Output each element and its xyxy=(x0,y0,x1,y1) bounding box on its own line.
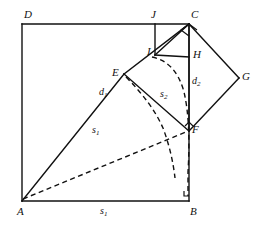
diagram-canvas xyxy=(0,0,262,229)
measure-label-d1: d1 xyxy=(99,87,108,97)
measure-label-s1-diag: s1 xyxy=(92,125,99,135)
measure-subscript: 1 xyxy=(104,210,108,218)
vertex-label-g: G xyxy=(242,71,250,82)
vertex-label-c: C xyxy=(191,9,198,20)
geometry-figure: DJCIHGEFAB d1s1s2d2s1 xyxy=(0,0,262,229)
measure-label-d2: d2 xyxy=(192,76,201,86)
measure-subscript: 2 xyxy=(164,93,168,101)
dashed-construction-group xyxy=(23,57,189,199)
edge-E-F xyxy=(124,74,189,131)
vertex-label-e: E xyxy=(112,67,119,78)
measure-label-s2: s2 xyxy=(160,89,167,99)
measure-label-s1-bottom: s1 xyxy=(100,206,107,216)
edge-I-H xyxy=(155,55,189,57)
solid-edges-group xyxy=(22,24,239,201)
vertex-label-b: B xyxy=(190,206,197,217)
edge-E-C xyxy=(124,24,189,74)
edge-I-C xyxy=(155,24,189,55)
vertex-label-d: D xyxy=(24,9,32,20)
vertex-label-h: H xyxy=(193,49,201,60)
vertex-label-i: I xyxy=(147,46,151,57)
measure-subscript: 1 xyxy=(104,91,108,99)
chord-A-to-F xyxy=(23,132,186,199)
measure-subscript: 2 xyxy=(197,80,201,88)
arc-E-to-F xyxy=(126,77,175,178)
edge-A-E xyxy=(22,74,124,201)
vertex-label-j: J xyxy=(151,9,156,20)
vertex-label-a: A xyxy=(17,206,24,217)
measure-subscript: 1 xyxy=(96,129,100,137)
vertex-label-f: F xyxy=(192,124,199,135)
